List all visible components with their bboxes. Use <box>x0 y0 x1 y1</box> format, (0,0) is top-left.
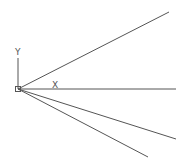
y-axis-label: Y <box>14 47 21 57</box>
drawing-canvas[interactable]: Y X <box>0 0 182 168</box>
ray-upper <box>18 12 169 89</box>
ray-lowest <box>18 89 148 157</box>
ray-lower <box>18 89 176 139</box>
x-axis-label: X <box>52 80 58 90</box>
ray-lines <box>18 12 176 157</box>
ucs-icon <box>16 58 21 92</box>
